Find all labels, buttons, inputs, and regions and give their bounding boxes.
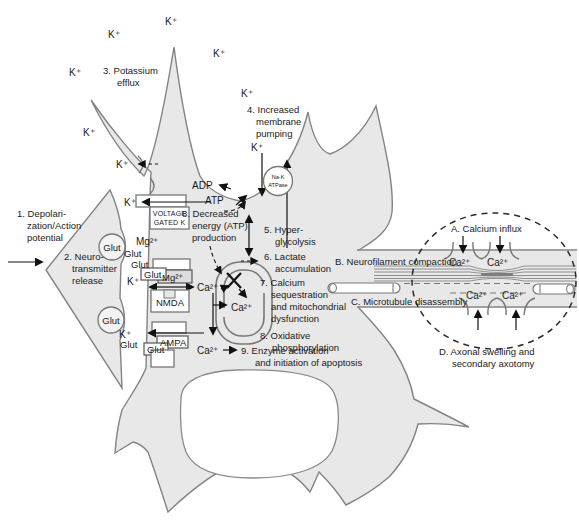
k-pump-label: K⁺ (251, 142, 263, 153)
ca-axon-label: Ca²⁺ (502, 290, 523, 301)
step3-line1: efflux (117, 77, 140, 88)
step1-line2: potential (27, 232, 63, 243)
step8a-line1: energy (ATP) (192, 220, 248, 231)
step7-line3: dysfunction (271, 313, 319, 324)
ca-mito-label: Ca²⁺ (231, 302, 252, 313)
step5-line1: glycolysis (275, 236, 316, 247)
axon-d-line1: secondary axotomy (452, 358, 535, 369)
microtubule-right (533, 284, 575, 294)
glut-label: Glut (120, 339, 138, 350)
step9-line1: and initiation of apoptosis (255, 357, 362, 368)
k-ion-label: K⁺ (69, 67, 81, 78)
voltage-gated-k-channel (136, 195, 186, 207)
adp-label: ADP (192, 180, 213, 191)
na-k-atpase-pump (264, 167, 293, 196)
step2-line2: release (72, 275, 103, 286)
ca-axon-label: Ca²⁺ (487, 257, 508, 268)
axon-d-line0: D. Axonal swelling and (439, 346, 535, 357)
atp-label: ATP (205, 195, 224, 206)
ca-axon-label: Ca²⁺ (449, 257, 470, 268)
k-ion-label: K⁺ (213, 48, 225, 59)
step6-line1: accumulation (275, 263, 331, 274)
k-vgk-label: K⁺ (124, 197, 136, 208)
vgk-label-line1: GATED K (154, 219, 186, 226)
mg-ion-label: Mg²⁺ (136, 236, 158, 247)
step7-line1: sequestration (271, 289, 328, 300)
nmda-label: NMDA (156, 297, 185, 308)
neuron-excitotoxicity-diagram: K⁺ K⁺ K⁺ K⁺ K⁺ K⁺ K⁺ K⁺ K⁺ K⁺ K⁺ 3. Pota… (0, 0, 579, 522)
step2-line0: 2. Neuro- (64, 251, 104, 262)
step4-line0: 4. Increased (247, 104, 299, 115)
glut-vesicle-label: Glut (102, 315, 120, 326)
step1-line0: 1. Depolari- (17, 208, 66, 219)
ca-axon-label: Ca²⁺ (466, 290, 487, 301)
ampa-channel-bar (152, 322, 186, 333)
step9-line0: 9. Enzyme activation (241, 345, 329, 356)
figure-canvas: K⁺ K⁺ K⁺ K⁺ K⁺ K⁺ K⁺ K⁺ K⁺ K⁺ K⁺ 3. Pota… (0, 0, 579, 522)
step8b-line0: 8. Oxidative (260, 330, 310, 341)
adp-arrow (220, 185, 231, 189)
step6-line0: 6. Lactate (264, 251, 306, 262)
mg-block-label: Mg²⁺ (162, 272, 183, 283)
k-ion-label: K⁺ (165, 16, 177, 27)
step7-line0: 7. Calcium (260, 277, 305, 288)
step4-line1: membrane (256, 116, 301, 127)
step1-line1: zation/Action (27, 220, 81, 231)
step2-line1: transmitter (72, 263, 117, 274)
nucleus (181, 370, 339, 478)
glut-vesicle-label: Glut (103, 242, 121, 253)
axon-a-label: A. Calcium influx (451, 223, 522, 234)
step3-line0: 3. Potassium (103, 65, 158, 76)
step8a-line2: production (192, 232, 236, 243)
axon-b-label: B. Neurofilament compaction (335, 256, 457, 267)
k-ion-label: K⁺ (108, 29, 120, 40)
pump-label-line0: Na-K (272, 174, 285, 180)
ca-apoptosis-label: Ca²⁺ (197, 345, 218, 356)
pump-label-line1: ATPase (268, 182, 287, 188)
glut-label: Glut (124, 248, 142, 259)
ca-nmda-label: Ca²⁺ (197, 282, 218, 293)
glut-box-label: Glut (147, 344, 165, 355)
k-ion-label: K⁺ (83, 127, 95, 138)
k-nmda-label: K⁺ (127, 276, 139, 287)
k-leak-label: K⁺ (116, 159, 128, 170)
axon-c-label: C. Microtubule disassembly (351, 296, 467, 307)
glut-box-label: Glut (144, 269, 162, 280)
microtubule-left (328, 283, 400, 293)
step7-line2: and mitochondrial (271, 301, 346, 312)
step5-line0: 5. Hyper- (264, 224, 303, 235)
step4-line2: pumping (256, 128, 292, 139)
k-ion-label: K⁺ (241, 88, 253, 99)
step8a-line0: 8. Decreased (182, 208, 239, 219)
